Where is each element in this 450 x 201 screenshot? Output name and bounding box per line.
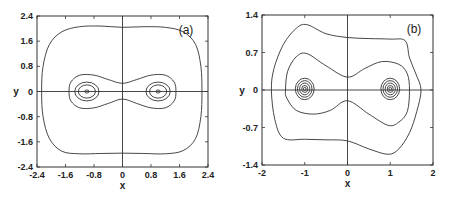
orbit-ellipse: [385, 83, 395, 95]
x-tick-label: -1.6: [58, 170, 74, 180]
orbit-ellipse: [302, 85, 308, 92]
y-tick-label: -0.7: [242, 123, 258, 133]
x-tick-label: -0.8: [86, 170, 102, 180]
figure: -2.4-1.6-0.800.81.62.4-2.4-1.6-0.800.81.…: [0, 0, 450, 201]
panel-a-phase-portrait: -2.4-1.6-0.800.81.62.4-2.4-1.6-0.800.81.…: [13, 11, 214, 191]
y-tick-label: -2.4: [17, 162, 33, 172]
y-tick-label: -1.4: [242, 160, 258, 170]
y-tick-label: -0.8: [17, 112, 33, 122]
x-tick-label: -2: [258, 168, 266, 178]
orbit-curve: [271, 24, 421, 154]
y-tick-label: 0.8: [20, 61, 33, 71]
orbit-ellipse: [300, 83, 310, 95]
y-tick-label: 2.4: [20, 11, 33, 21]
y-tick-label: 0: [28, 87, 33, 97]
orbit-curve: [42, 26, 202, 154]
y-tick-label: 0: [253, 85, 258, 95]
x-tick-label: 2.4: [202, 170, 215, 180]
x-tick-label: 0: [345, 168, 350, 178]
y-tick-label: 1.6: [20, 36, 33, 46]
x-tick-label: 0: [120, 170, 125, 180]
y-tick-label: 0.7: [245, 48, 258, 58]
orbit-ellipse: [387, 85, 393, 92]
panel-b-x-axis-label: x: [345, 178, 351, 189]
panel-a-x-axis-label: x: [120, 180, 126, 191]
panel-b-y-axis-label: y: [239, 85, 245, 96]
panel-b-curves: [271, 24, 421, 154]
x-tick-label: 1: [388, 168, 393, 178]
panel-a-y-axis-label: y: [13, 86, 19, 97]
x-tick-label: -1: [301, 168, 309, 178]
x-tick-label: 2: [430, 168, 435, 178]
panel-b-phase-portrait: -2-1012-1.4-0.700.71.4 (b) x y: [239, 10, 435, 189]
panel-a-label: (a): [179, 23, 194, 37]
y-tick-label: 1.4: [245, 10, 258, 20]
x-tick-label: 0.8: [145, 170, 158, 180]
y-tick-label: -1.6: [17, 137, 33, 147]
panel-a-curves: [42, 26, 202, 154]
panel-b-label: (b): [407, 22, 422, 36]
orbit-ellipse: [381, 78, 400, 99]
orbit-ellipse: [295, 78, 314, 99]
x-tick-label: 1.6: [173, 170, 186, 180]
